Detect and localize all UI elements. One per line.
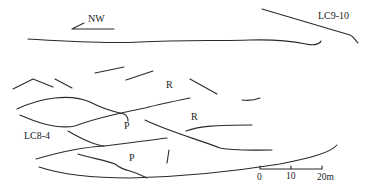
r-splay-trace (186, 125, 252, 131)
scale-label-20m: 20m (317, 173, 334, 183)
r-fracture-trace (145, 120, 272, 150)
r-label-1: R (166, 80, 173, 90)
scale-label-0: 0 (257, 173, 262, 183)
fracture-traces (0, 0, 372, 193)
r-label-2: R (191, 112, 198, 122)
fracture-3 (95, 67, 124, 73)
fracture-6 (242, 98, 260, 100)
lc8-4-label: LC8-4 (24, 131, 50, 141)
p-label-1: P (124, 121, 130, 131)
p-label-2: P (129, 153, 135, 163)
nw-label: NW (88, 14, 105, 24)
short-vertical-fracture (167, 150, 169, 163)
scale-bar (260, 166, 322, 169)
p-step-trace (78, 154, 147, 178)
fracture-1 (13, 79, 53, 89)
lower-left-splay-trace (36, 146, 104, 159)
lens-upper-trace (17, 97, 128, 121)
fracture-5 (190, 79, 217, 94)
fracture-4 (126, 71, 153, 80)
lens-lower-trace (20, 98, 190, 127)
lc9-10-label: LC9-10 (318, 11, 349, 21)
upper-boundary-trace (28, 39, 321, 45)
lc8-4-trace (68, 131, 167, 146)
fracture-2 (55, 79, 72, 88)
scale-label-10: 10 (286, 172, 296, 182)
outcrop-sketch-diagram: NW LC9-10 LC8-4 R R P P 0 10 20m (0, 0, 372, 193)
